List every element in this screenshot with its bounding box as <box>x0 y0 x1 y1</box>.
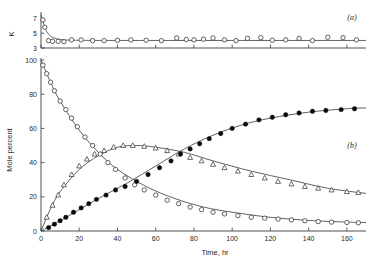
panel-b-x-tick-label: 100 <box>226 235 238 242</box>
panel-b-reactant-marker <box>176 201 180 205</box>
panel-b-intermediate-marker <box>199 158 204 163</box>
panel-b-reactant-marker <box>52 89 56 93</box>
panel-b-product-marker <box>113 188 117 192</box>
panel-b: Mole percent 020406080100 02040608010012… <box>5 57 366 257</box>
panel-b-reactant-marker <box>83 135 87 139</box>
panel-b-x-tick-label: 140 <box>303 235 315 242</box>
panel-b-reactant-marker <box>64 107 68 111</box>
panel-a: K 357 (a) <box>7 12 366 52</box>
panel-b-x-tick-label: 40 <box>114 235 122 242</box>
panel-b-fit-curve <box>41 60 366 222</box>
panel-a-data-marker <box>201 37 205 41</box>
panel-a-data-marker <box>234 38 238 42</box>
panel-a-data-marker <box>79 38 83 42</box>
panel-b-reactant-marker <box>188 205 192 209</box>
panel-a-data-marker <box>69 38 73 42</box>
panel-b-reactant-marker <box>58 99 62 103</box>
panel-b-intermediate-marker <box>92 151 97 156</box>
panel-b-reactant-marker <box>75 124 79 128</box>
panel-a-y-tick-labels: 357 <box>33 15 37 52</box>
panel-b-y-axis-title: Mole percent <box>5 127 14 171</box>
panel-a-data-marker <box>211 36 215 40</box>
panel-b-product-marker <box>79 206 83 210</box>
panel-b-intermediate-marker <box>102 148 107 153</box>
panel-b-product-marker <box>207 136 211 140</box>
panel-b-x-tick-label: 120 <box>265 235 277 242</box>
panel-b-intermediate-marker <box>249 172 254 177</box>
panel-a-data-marker <box>284 38 288 42</box>
panel-b-reactant-marker <box>249 215 253 219</box>
panel-a-axes <box>41 12 366 48</box>
panel-b-x-tick-label: 160 <box>341 235 353 242</box>
panel-b-product-marker <box>58 219 62 223</box>
panel-a-label: (a) <box>347 13 357 22</box>
panel-b-product-marker <box>87 201 91 205</box>
panel-b-reactant-marker <box>262 216 266 220</box>
panel-a-data-marker <box>129 38 133 42</box>
panel-b-x-tick-label: 20 <box>75 235 83 242</box>
panel-a-data-marker <box>326 35 330 39</box>
panel-b-reactant-marker <box>222 212 226 216</box>
panel-b-reactant-marker <box>345 220 349 224</box>
panel-b-product-marker <box>46 225 50 229</box>
panel-b-reactant-marker <box>90 143 94 147</box>
panel-a-data-marker <box>41 18 45 22</box>
panel-b-y-tick-label: 60 <box>29 125 37 132</box>
panel-b-product-marker <box>178 152 182 156</box>
panel-b-product-marker <box>270 115 274 119</box>
panel-a-data-marker <box>270 38 274 42</box>
panel-b-y-tick-label: 100 <box>25 57 37 64</box>
two-panel-kinetics-chart: K 357 (a) Mole percent 020406080100 0204… <box>0 0 373 262</box>
figure-container: K 357 (a) Mole percent 020406080100 0204… <box>0 0 373 262</box>
panel-a-data-marker <box>56 39 60 43</box>
panel-b-reactant-marker <box>106 160 110 164</box>
panel-b-product-marker <box>257 118 261 122</box>
panel-b-reactant-marker <box>199 207 203 211</box>
panel-b-reactant-marker <box>316 219 320 223</box>
panel-b-reactant-marker <box>303 219 307 223</box>
panel-b-x-tick-label: 60 <box>152 235 160 242</box>
panel-b-reactant-marker <box>154 193 158 197</box>
panel-b-intermediate-marker <box>302 184 307 189</box>
panel-b-product-marker <box>197 142 201 146</box>
panel-b-intermediate-marker <box>44 215 49 220</box>
panel-b-product-marker <box>123 184 127 188</box>
panel-b-reactant-marker <box>276 217 280 221</box>
panel-b-product-marker <box>243 122 247 126</box>
panel-b-intermediate-marker <box>77 163 82 168</box>
panel-b-reactant-marker <box>142 188 146 192</box>
panel-a-data-marker <box>43 25 47 29</box>
panel-b-intermediate-marker <box>188 155 193 160</box>
panel-b-x-tick-label: 0 <box>39 235 43 242</box>
panel-b-reactant-marker <box>45 71 49 75</box>
panel-a-data-marker <box>354 38 358 42</box>
panel-b-product-marker <box>134 179 138 183</box>
panel-a-data-marker <box>62 40 66 44</box>
panel-a-data-marker <box>341 35 345 39</box>
panel-b-x-axis-title: Time, hr <box>201 248 229 257</box>
panel-b-product-marker <box>339 107 343 111</box>
panel-a-y-tick-label: 3 <box>33 45 37 52</box>
panel-b-intermediate-marker <box>276 179 281 184</box>
panel-b-product-marker <box>324 108 328 112</box>
panel-b-product-marker <box>157 166 161 170</box>
panel-b-product-marker <box>94 197 98 201</box>
panel-b-x-tick-label: 80 <box>190 235 198 242</box>
panel-a-y-tick-label: 7 <box>33 15 37 22</box>
panel-b-reactant-marker <box>123 176 127 180</box>
panel-b-intermediate-marker <box>111 145 116 150</box>
panel-b-y-tick-label: 20 <box>29 193 37 200</box>
panel-b-product-marker <box>104 193 108 197</box>
panel-b-reactant-marker <box>69 116 73 120</box>
panel-b-reactant-marker <box>356 221 360 225</box>
panel-a-y-tick-label: 5 <box>33 30 37 37</box>
panel-a-data-marker <box>115 38 119 42</box>
panel-b-product-marker <box>230 126 234 130</box>
panel-b-product-marker <box>284 113 288 117</box>
panel-b-reactant-marker <box>48 80 52 84</box>
panel-a-data-marker <box>175 36 179 40</box>
panel-b-y-tick-label: 40 <box>29 159 37 166</box>
panel-b-product-marker <box>219 131 223 135</box>
panel-a-data-marker <box>192 38 196 42</box>
panel-b-y-tick-labels: 020406080100 <box>25 57 37 235</box>
